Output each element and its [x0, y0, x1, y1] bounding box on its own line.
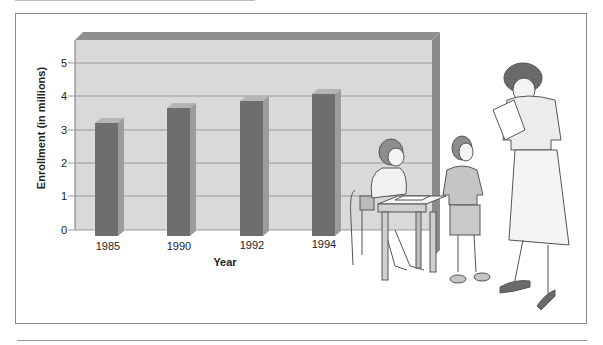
y-tick-1: 1	[55, 190, 67, 202]
bar-1992	[240, 96, 269, 236]
chart-and-illustration	[0, 0, 603, 345]
bottom-rule	[17, 340, 587, 341]
y-tick-3: 3	[55, 124, 67, 136]
x-tick-1992: 1992	[232, 239, 272, 251]
x-axis-label: Year	[200, 256, 250, 268]
standing-child-illustration	[443, 136, 490, 283]
y-tick-2: 2	[55, 157, 67, 169]
y-tick-4: 4	[55, 90, 67, 102]
bar-1990	[167, 103, 196, 236]
y-axis-label: Enrollment (in millions)	[35, 43, 47, 213]
teacher-illustration	[493, 63, 569, 310]
bar-1994	[312, 89, 341, 236]
y-tick-0: 0	[55, 224, 67, 236]
y-tick-5: 5	[55, 57, 67, 69]
x-tick-1985: 1985	[88, 240, 128, 252]
bar-1985	[95, 118, 124, 236]
x-tick-1994: 1994	[304, 238, 344, 250]
x-tick-1990: 1990	[159, 240, 199, 252]
